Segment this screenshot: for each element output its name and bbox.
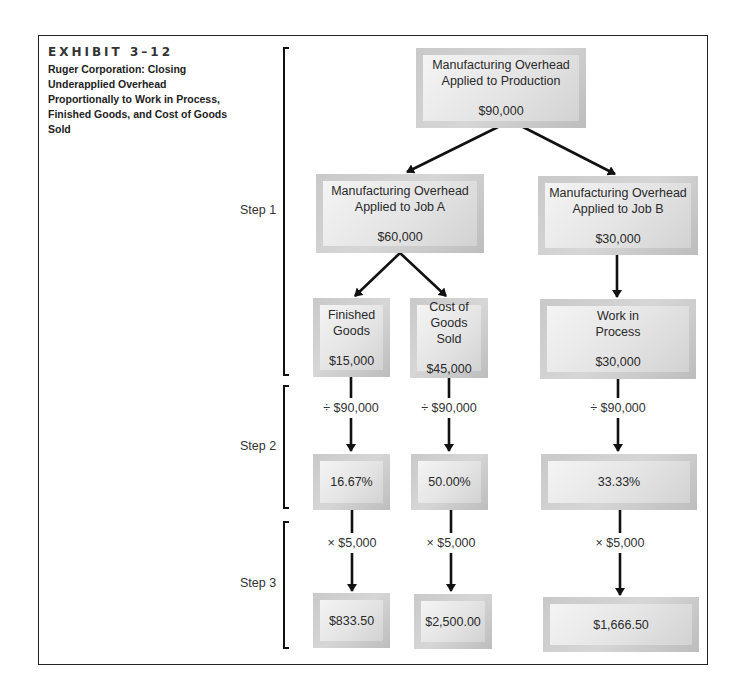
allocation-value: $833.50 <box>320 600 383 641</box>
cogs-allocation-box: $2,500.00 <box>414 594 492 649</box>
percent-value: 16.67% <box>320 461 383 503</box>
wip-allocation-box: $1,666.50 <box>543 597 699 652</box>
node-label: Finished Goods <box>322 307 381 339</box>
node-amount: $30,000 <box>595 354 640 370</box>
node-label: Manufacturing Overhead Applied to Job A <box>323 183 477 215</box>
allocation-value: $1,666.50 <box>550 604 692 645</box>
allocation-value: $2,500.00 <box>421 601 485 642</box>
node-amount: $90,000 <box>478 103 523 119</box>
overhead-job-b-box: Manufacturing Overhead Applied to Job B … <box>538 176 698 255</box>
node-amount: $30,000 <box>595 231 640 247</box>
percent-value: 50.00% <box>418 461 481 503</box>
overhead-job-a-box: Manufacturing Overhead Applied to Job A … <box>316 174 484 253</box>
multiply-label-wip: × $5,000 <box>575 536 665 550</box>
node-label: Manufacturing Overhead Applied to Produc… <box>423 57 579 89</box>
work-in-process-box: Work in Process $30,000 <box>540 299 696 379</box>
finished-goods-box: Finished Goods $15,000 <box>313 298 390 377</box>
cost-of-goods-sold-box: Cost of Goods Sold $45,000 <box>410 298 488 378</box>
fg-percent-box: 16.67% <box>313 454 390 510</box>
node-amount: $45,000 <box>426 361 471 377</box>
wip-percent-box: 33.33% <box>541 454 697 510</box>
node-amount: $60,000 <box>377 229 422 245</box>
multiply-label-fg: × $5,000 <box>307 536 397 550</box>
cogs-percent-box: 50.00% <box>411 454 488 510</box>
node-label: Work in Process <box>585 308 651 340</box>
node-amount: $15,000 <box>329 353 374 369</box>
percent-value: 33.33% <box>548 461 690 503</box>
fg-allocation-box: $833.50 <box>313 593 390 648</box>
multiply-label-cogs: × $5,000 <box>406 536 496 550</box>
node-label: Cost of Goods Sold <box>419 299 479 347</box>
node-label: Manufacturing Overhead Applied to Job B <box>545 185 691 217</box>
overhead-applied-production-box: Manufacturing Overhead Applied to Produc… <box>416 48 586 128</box>
divide-label-cogs: ÷ $90,000 <box>404 401 494 415</box>
divide-label-wip: ÷ $90,000 <box>573 401 663 415</box>
divide-label-fg: ÷ $90,000 <box>306 401 396 415</box>
